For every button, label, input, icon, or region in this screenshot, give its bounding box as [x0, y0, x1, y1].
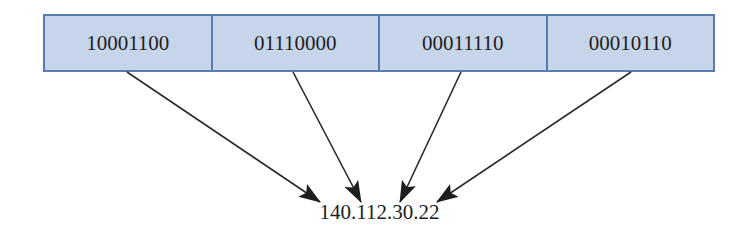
arrow-octet-2	[293, 72, 361, 202]
dotted-decimal-address: 140.112.30.22	[0, 200, 751, 225]
arrow-octet-3	[400, 72, 461, 202]
arrow-octet-4	[437, 72, 631, 202]
arrow-octet-1	[127, 72, 320, 202]
